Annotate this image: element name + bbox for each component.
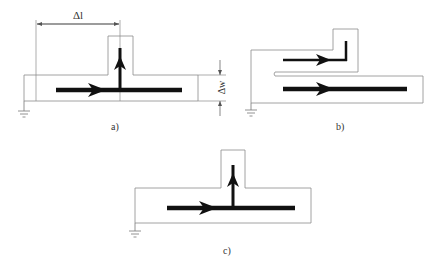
panel-a — [18, 20, 226, 117]
panel-a-label: a) — [111, 121, 119, 132]
delta-l-label: Δl — [73, 9, 83, 21]
panel-b-label: b) — [336, 121, 344, 132]
panel-c-label: c) — [223, 245, 231, 256]
ground-symbol-icon — [245, 103, 257, 116]
figure-canvas — [0, 0, 437, 271]
ground-plane-outline-b — [251, 29, 423, 103]
ground-symbol-icon — [129, 223, 141, 237]
panel-c — [129, 150, 311, 237]
delta-w-label: Δw — [216, 81, 227, 95]
panel-b — [245, 29, 423, 116]
ground-symbol-icon — [18, 101, 30, 117]
ground-plane-outline-c — [135, 150, 311, 223]
